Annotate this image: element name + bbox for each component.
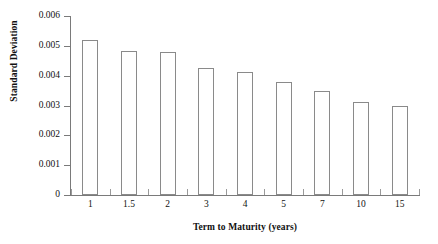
bar — [276, 82, 292, 195]
y-axis-tick-label: 0.002 — [14, 131, 60, 141]
x-axis-tick-label: 3 — [186, 200, 226, 210]
bar — [314, 91, 330, 195]
bar — [82, 40, 98, 195]
y-axis-tick-label: 0.006 — [14, 11, 60, 21]
y-axis-tick-label: 0.004 — [14, 71, 60, 81]
plot-area — [71, 16, 419, 195]
bar — [353, 102, 369, 195]
x-axis-tick-label: 4 — [225, 200, 265, 210]
bar — [121, 51, 137, 195]
x-axis-tick — [148, 189, 149, 195]
x-axis-tick-label: 5 — [264, 200, 304, 210]
y-axis-tick-label: 0.005 — [14, 41, 60, 51]
x-axis-tick — [187, 189, 188, 195]
x-axis-line — [70, 195, 420, 196]
x-axis-tick — [419, 189, 420, 195]
x-axis-tick-label: 2 — [148, 200, 188, 210]
x-axis-tick-label: 1 — [70, 200, 110, 210]
bar — [160, 52, 176, 195]
x-axis-tick — [264, 189, 265, 195]
x-axis-title: Term to Maturity (years) — [70, 222, 420, 232]
x-axis-tick-label: 1.5 — [109, 200, 149, 210]
x-axis-tick-label: 15 — [380, 200, 420, 210]
x-axis-tick — [342, 189, 343, 195]
x-axis-tick — [71, 189, 72, 195]
bar — [392, 106, 408, 195]
x-axis-tick-label: 7 — [302, 200, 342, 210]
bar — [237, 72, 253, 195]
x-axis-tick-label: 10 — [341, 200, 381, 210]
bar — [198, 68, 214, 195]
x-axis-tick — [226, 189, 227, 195]
y-axis-tick-label: 0.001 — [14, 160, 60, 170]
x-axis-tick — [303, 189, 304, 195]
bar-chart: Standard Deviation 00.0010.0020.0030.004… — [0, 0, 438, 244]
x-axis-tick — [380, 189, 381, 195]
y-axis-tick-label: 0 — [14, 190, 60, 200]
x-axis-tick — [110, 189, 111, 195]
y-axis-tick-label: 0.003 — [14, 101, 60, 111]
